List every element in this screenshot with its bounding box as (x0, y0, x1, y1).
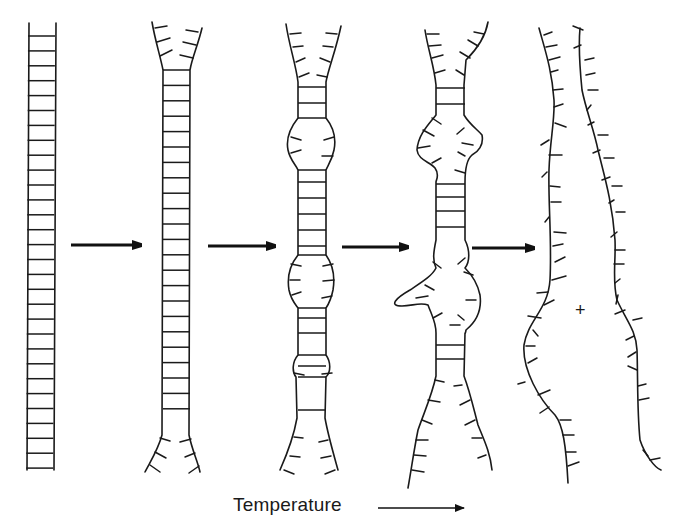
stage-5-separated-strands (518, 26, 661, 483)
stage-1-intact-helix (26, 23, 56, 470)
temperature-axis-label: Temperature (233, 494, 342, 516)
center-cross-mark: + (575, 300, 586, 321)
dna-melting-diagram: + Temperature (0, 0, 681, 529)
stage-3-internal-bubbles (280, 24, 341, 474)
stage-2-frayed-ends (145, 22, 202, 473)
diagram-canvas (0, 0, 681, 529)
stage-4-large-melted-regions (395, 22, 492, 488)
